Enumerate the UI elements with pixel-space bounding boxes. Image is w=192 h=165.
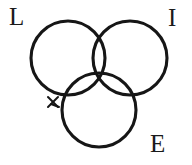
x-mark-icon [48,97,59,107]
venn-label-l: L [9,4,24,29]
venn-circle-e [62,73,136,147]
venn-diagram-figure: L I E [0,0,192,165]
venn-label-i: I [168,5,176,30]
venn-label-e: E [150,131,165,156]
